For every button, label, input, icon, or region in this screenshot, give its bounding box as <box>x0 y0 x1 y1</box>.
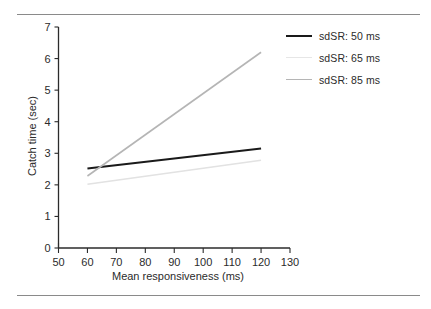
legend-label-sdsr-50: sdSR: 50 ms <box>319 30 380 42</box>
y-tick-label: 5 <box>44 84 50 96</box>
x-tick-label: 50 <box>52 256 64 268</box>
x-axis-ticks: 5060708090100110120130 <box>52 243 299 268</box>
figure-panel: 01234567 5060708090100110120130 Mean res… <box>0 0 431 309</box>
axes-spines <box>59 27 291 248</box>
x-tick-label: 110 <box>223 256 241 268</box>
legend-swatch-sdsr-65 <box>286 57 312 58</box>
legend-swatch-sdsr-50 <box>286 35 312 37</box>
x-tick-label: 90 <box>168 256 180 268</box>
y-tick-label: 0 <box>44 242 50 254</box>
y-tick-label: 6 <box>44 53 50 65</box>
chart-legend: sdSR: 50 ms sdSR: 65 ms sdSR: 85 ms <box>286 26 426 92</box>
x-tick-label: 100 <box>194 256 212 268</box>
series-line <box>87 160 261 184</box>
x-tick-label: 120 <box>252 256 270 268</box>
x-tick-label: 130 <box>281 256 299 268</box>
y-tick-label: 3 <box>44 147 50 159</box>
x-axis-title: Mean responsiveness (ms) <box>58 270 298 282</box>
y-tick-label: 2 <box>44 179 50 191</box>
x-tick-label: 80 <box>139 256 151 268</box>
series-line <box>87 149 261 169</box>
y-tick-label: 1 <box>44 210 50 222</box>
x-tick-label: 70 <box>110 256 122 268</box>
legend-item-sdsr-50: sdSR: 50 ms <box>286 26 426 45</box>
y-axis-title: Catch time (sec) <box>26 66 38 206</box>
y-tick-label: 7 <box>44 21 50 33</box>
y-axis-ticks: 01234567 <box>44 21 58 254</box>
legend-label-sdsr-85: sdSR: 85 ms <box>319 74 380 86</box>
legend-swatch-sdsr-85 <box>286 79 312 80</box>
data-series-group <box>87 52 261 184</box>
legend-item-sdsr-65: sdSR: 65 ms <box>286 48 426 67</box>
y-tick-label: 4 <box>44 116 50 128</box>
series-line <box>87 52 261 176</box>
x-tick-label: 60 <box>81 256 93 268</box>
legend-label-sdsr-65: sdSR: 65 ms <box>319 52 380 64</box>
legend-item-sdsr-85: sdSR: 85 ms <box>286 70 426 89</box>
